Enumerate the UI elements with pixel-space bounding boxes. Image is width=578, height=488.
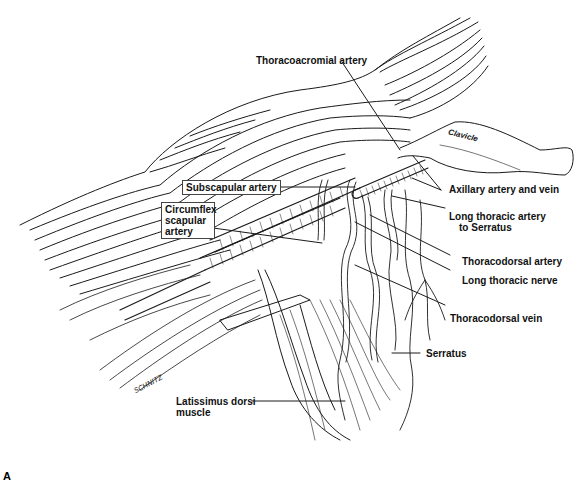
clavicle-bone xyxy=(398,122,573,175)
label-axillary-artery-vein: Axillary artery and vein xyxy=(449,184,559,195)
panel-letter: A xyxy=(3,470,11,482)
label-circumflex-scapular-artery: Circumflex scapular artery xyxy=(161,202,215,239)
leader-lines xyxy=(213,62,450,401)
label-long-thoracic-nerve: Long thoracic nerve xyxy=(462,275,558,286)
label-line: to Serratus xyxy=(449,222,546,233)
neck-muscle-fibers xyxy=(375,18,488,118)
descending-vessels-nerves xyxy=(318,180,445,430)
label-serratus: Serratus xyxy=(426,348,467,359)
label-thoracoacromial-artery: Thoracoacromial artery xyxy=(256,55,367,66)
label-thoracodorsal-artery: Thoracodorsal artery xyxy=(462,256,562,267)
label-line: artery xyxy=(165,226,211,237)
label-line: muscle xyxy=(176,407,255,418)
anatomical-illustration xyxy=(0,0,578,488)
arm-muscle-band xyxy=(60,265,262,390)
label-line: Circumflex xyxy=(165,204,211,215)
label-subscapular-artery: Subscapular artery xyxy=(182,180,281,195)
pectoralis-muscle xyxy=(20,18,460,294)
label-latissimus-dorsi: Latissimus dorsi muscle xyxy=(176,396,255,418)
label-line: Long thoracic artery xyxy=(449,211,546,222)
label-thoracodorsal-vein: Thoracodorsal vein xyxy=(450,313,542,324)
label-long-thoracic-artery: Long thoracic artery to Serratus xyxy=(449,211,546,233)
label-line: Latissimus dorsi xyxy=(176,396,255,407)
label-line: scapular xyxy=(165,215,211,226)
latissimus-dorsi-fibers xyxy=(280,300,400,440)
